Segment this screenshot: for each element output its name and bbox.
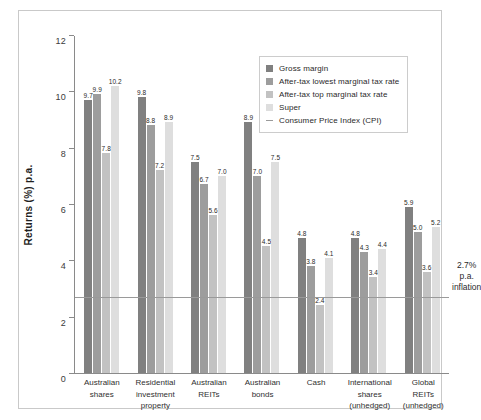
bar-column: 8.9 (244, 36, 252, 373)
inflation-annotation-line: p.a. (452, 271, 481, 282)
x-axis-label-line: (unhedged) (397, 400, 449, 412)
legend-line-swatch (266, 117, 273, 124)
bar-value-label: 7.0 (217, 168, 226, 175)
bar (84, 100, 92, 373)
bar-column: 8.9 (165, 36, 173, 373)
y-axis-tick (69, 148, 74, 149)
y-axis-tick (69, 204, 74, 205)
inflation-annotation: 2.7%p.a.inflation (452, 260, 481, 294)
bar-column: 3.6 (423, 36, 431, 373)
legend-entry: Gross margin (266, 62, 399, 75)
bar-value-label: 7.2 (155, 162, 164, 169)
bar-column: 7.5 (191, 36, 199, 373)
bar-value-label: 3.8 (306, 258, 315, 265)
x-axis-label-line: bonds (237, 389, 289, 401)
bar-value-label: 4.8 (297, 230, 306, 237)
x-axis-category-label: Residentialinvestmentproperty (129, 377, 183, 412)
bar-column: 5.2 (432, 36, 440, 373)
legend-color-swatch (266, 104, 273, 111)
inflation-annotation-line: inflation (452, 282, 481, 293)
legend-label: After-tax top marginal tax rate (279, 90, 387, 99)
x-axis-label-line: REITs (397, 389, 449, 401)
x-axis-label-line: Cash (290, 377, 342, 389)
bar-value-label: 7.5 (271, 154, 280, 161)
x-axis-category-label: GlobalREITs(unhedged) (396, 377, 450, 412)
bar-column: 8.8 (147, 36, 155, 373)
clipped-caption-text (0, 0, 454, 7)
bar-value-label: 2.4 (315, 297, 324, 304)
bar (351, 238, 359, 373)
bar (147, 125, 155, 373)
bar-value-label: 7.0 (253, 168, 262, 175)
chart-legend: Gross marginAfter-tax lowest marginal ta… (259, 56, 408, 133)
figure-frame: Returns (%) p.a. 024681012 9.79.97.810.2… (18, 10, 442, 409)
bar-value-label: 7.8 (102, 145, 111, 152)
y-axis-title: Returns (%) p.a. (23, 165, 34, 246)
legend-label: After-tax lowest marginal tax rate (279, 77, 399, 86)
bar (414, 232, 422, 373)
bar-value-label: 8.8 (146, 117, 155, 124)
bar-value-label: 3.4 (369, 269, 378, 276)
bar-group: 9.79.97.810.2 (75, 36, 128, 373)
x-axis-category-label: AustralianREITs (182, 377, 236, 412)
clipped-caption-glyphs (22, 0, 25, 4)
bar-value-label: 8.9 (164, 114, 173, 121)
bar-value-label: 9.8 (137, 89, 146, 96)
bar-group: 9.88.87.28.9 (128, 36, 181, 373)
y-axis-tick (69, 317, 74, 318)
x-axis-line (74, 373, 449, 374)
bar-value-label: 7.5 (190, 154, 199, 161)
legend-color-swatch (266, 65, 273, 72)
bar (316, 305, 324, 373)
bar-value-label: 4.5 (262, 238, 271, 245)
y-axis-tick (69, 260, 74, 261)
x-axis-label-line: Australian (76, 377, 128, 389)
bar (102, 153, 110, 373)
bar (138, 97, 146, 373)
x-axis-label-line: Australian (183, 377, 235, 389)
x-axis-label-line: property (130, 400, 182, 412)
legend-color-swatch (266, 78, 273, 85)
legend-entry: After-tax top marginal tax rate (266, 88, 399, 101)
bar-column: 10.2 (111, 36, 119, 373)
bar-value-label: 5.9 (404, 199, 413, 206)
x-axis-labels: AustraliansharesResidentialinvestmentpro… (75, 377, 450, 412)
x-axis-category-label: Cash (289, 377, 343, 412)
cpi-reference-line (75, 297, 449, 298)
legend-entry: Consumer Price Index (CPI) (266, 114, 399, 127)
bar (218, 176, 226, 373)
x-axis-label-line: shares (344, 389, 396, 401)
legend-color-swatch (266, 91, 273, 98)
y-axis-tick (69, 91, 74, 92)
bar (360, 252, 368, 373)
bar-value-label: 5.6 (208, 207, 217, 214)
bar (209, 215, 217, 373)
bar-column: 7.8 (102, 36, 110, 373)
bar-value-label: 8.9 (244, 114, 253, 121)
bar (262, 246, 270, 373)
bar (253, 176, 261, 373)
legend-label: Gross margin (279, 64, 328, 73)
bar-column: 6.7 (200, 36, 208, 373)
bar (432, 227, 440, 373)
bar-value-label: 4.8 (351, 230, 360, 237)
bar (191, 162, 199, 373)
x-axis-label-line: (unhedged) (344, 400, 396, 412)
x-axis-category-label: Australianshares (75, 377, 129, 412)
bar-value-label: 4.3 (360, 244, 369, 251)
bar (156, 170, 164, 373)
bar-value-label: 4.1 (324, 250, 333, 257)
bar (93, 94, 101, 373)
legend-label: Super (279, 103, 301, 112)
y-axis-tick (69, 35, 74, 36)
legend-entry: Super (266, 101, 399, 114)
x-axis-label-line: REITs (183, 389, 235, 401)
bar (244, 122, 252, 373)
bar-column: 5.6 (209, 36, 217, 373)
x-axis-label-line: Australian (237, 377, 289, 389)
x-axis-label-line: shares (76, 389, 128, 401)
bar-column: 7.0 (218, 36, 226, 373)
bar (423, 272, 431, 373)
x-axis-label-line: International (344, 377, 396, 389)
